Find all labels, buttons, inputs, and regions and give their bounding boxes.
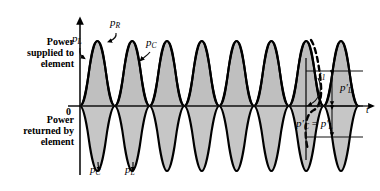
upper-region-label: Power supplied to element	[2, 36, 74, 70]
pL-prime-label: p′L	[340, 81, 352, 95]
pC-prime-equation: p′C = p′L	[296, 117, 333, 131]
power-waveform-figure: Power supplied to element 0 Power return…	[0, 0, 380, 191]
upper-region-line-2: supplied to	[2, 47, 74, 58]
lower-region-label: Power returned by element	[2, 114, 74, 148]
pC-bottom-label: pC	[90, 163, 101, 177]
t1-marker-label: t1	[319, 70, 325, 82]
pC-top-label-sub: C	[152, 41, 157, 50]
pL-prime2-sub: L	[329, 122, 333, 131]
upper-region-line-1: Power	[2, 36, 74, 47]
pC-top-label: pC	[146, 36, 157, 50]
pL-top-label-sub: L	[78, 37, 82, 46]
lower-region-line-2: returned by	[2, 125, 74, 136]
pC-bottom-label-sub: C	[96, 168, 101, 177]
pR-label: pR	[110, 16, 120, 30]
pR-label-sub: R	[116, 21, 121, 30]
waveform-plot	[0, 0, 380, 191]
pL-top-label: pL	[72, 32, 82, 46]
t1-marker-sub: 1	[322, 73, 326, 82]
lower-region-line-3: element	[2, 136, 74, 147]
pL-bottom-label-sub: L	[131, 168, 135, 177]
pL-bottom-label: pL	[125, 163, 135, 177]
pL-prime-sub: L	[348, 86, 352, 95]
upper-region-line-3: element	[2, 58, 74, 69]
lower-region-line-1: Power	[2, 114, 74, 125]
t-axis-label: t	[366, 104, 369, 115]
